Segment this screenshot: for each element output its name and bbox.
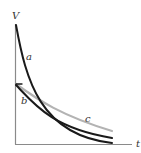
curve-a-label: a: [26, 51, 32, 62]
curve-c-label: c: [85, 113, 91, 124]
x-axis-label: t: [136, 138, 141, 149]
decay-curves-chart: V t a b c: [0, 0, 141, 153]
curve-b-label: b: [21, 95, 27, 106]
y-axis-label: V: [12, 10, 21, 21]
